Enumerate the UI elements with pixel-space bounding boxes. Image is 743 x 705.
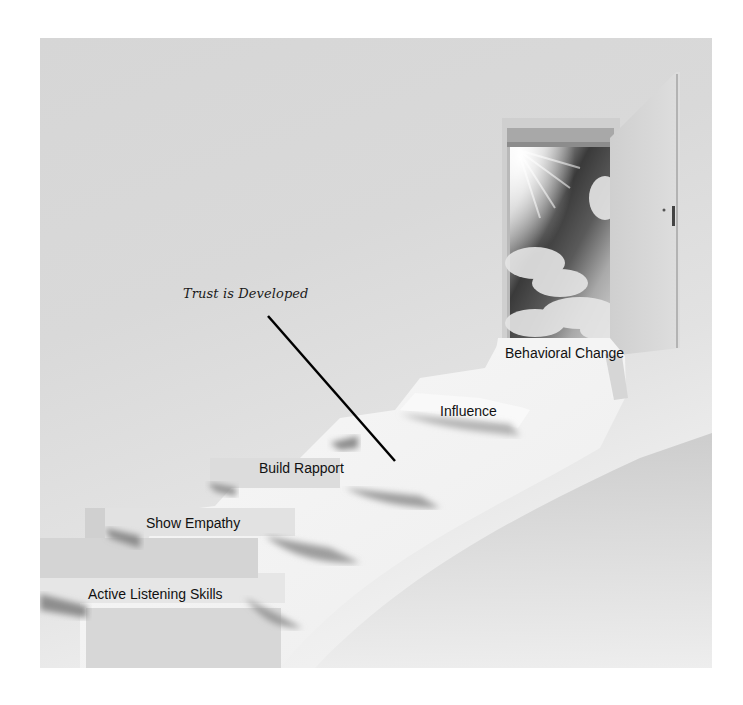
- step-label-behavioral-change: Behavioral Change: [505, 346, 624, 360]
- door-handle-icon: [672, 206, 675, 226]
- door-leaf: [610, 72, 680, 356]
- step-label-show-empathy: Show Empathy: [146, 516, 240, 530]
- doorway: [502, 118, 621, 368]
- staircase-diagram: Trust is Developed Active Listening Skil…: [40, 38, 712, 668]
- step-label-influence: Influence: [440, 404, 497, 418]
- annotation-trust-is-developed: Trust is Developed: [183, 286, 309, 301]
- step-label-build-rapport: Build Rapport: [259, 461, 344, 475]
- step-label-active-listening-skills: Active Listening Skills: [88, 587, 223, 601]
